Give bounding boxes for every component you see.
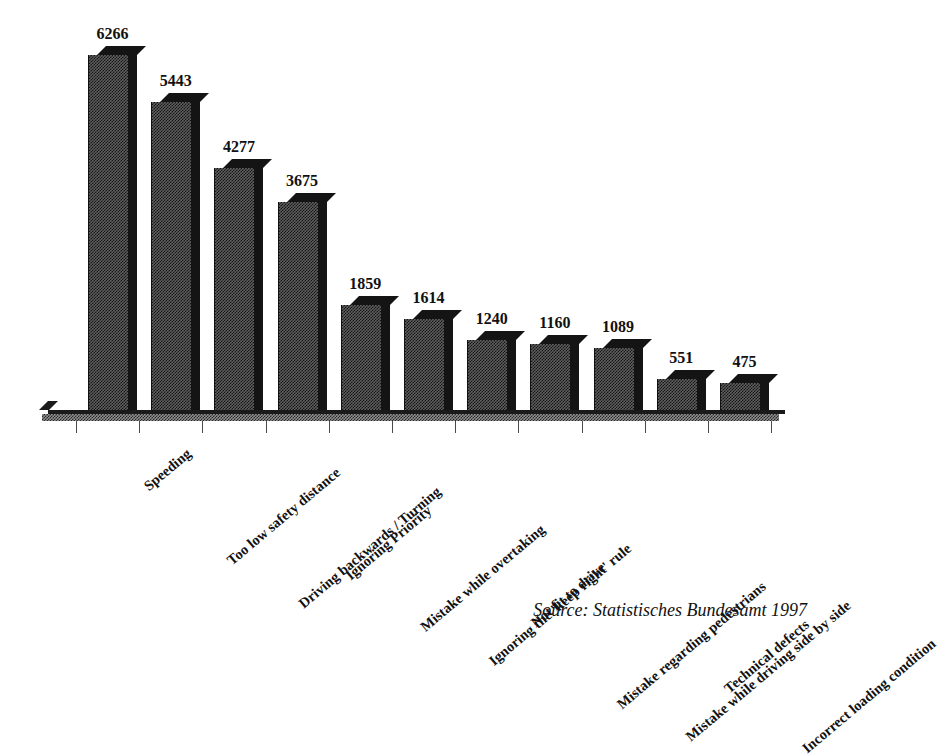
bar-front-face: [467, 340, 507, 410]
bar-side-face: [128, 55, 137, 410]
bar-top-face: [413, 310, 462, 319]
bar-top-face: [476, 331, 525, 340]
category-label: Speeding: [141, 446, 194, 493]
bar-value-label: 551: [647, 350, 716, 366]
source-note: Source: Statistisches Bundesamt 1997: [533, 600, 807, 621]
bar-top-face: [666, 370, 715, 379]
axis-tick: [455, 421, 456, 433]
bar-side-face: [507, 340, 516, 410]
category-label: Technical defects: [721, 617, 811, 696]
axis-tick: [771, 421, 772, 433]
bar-column: [341, 296, 390, 410]
axis-tick: [139, 421, 140, 433]
bar-side-face: [254, 168, 263, 410]
bar-front-face: [214, 168, 254, 410]
bar-value-label: 1614: [394, 290, 463, 306]
bar-front-face: [341, 305, 381, 410]
category-label: Ignoring Priority: [343, 503, 434, 583]
bar-front-face: [278, 202, 318, 410]
bar-front-face: [530, 344, 570, 410]
bar-value-label: 1859: [331, 276, 400, 292]
bar-column: [657, 370, 706, 410]
bar-value-label: 6266: [78, 26, 147, 42]
bar-top-face: [160, 93, 209, 102]
bar-front-face: [151, 102, 191, 410]
bar-side-face: [444, 319, 453, 410]
axis-tick: [645, 421, 646, 433]
bar-column: [404, 310, 453, 410]
bar-front-face: [594, 348, 634, 410]
bar-side-face: [570, 344, 579, 410]
bar-value-label: 5443: [141, 73, 210, 89]
bar-column: [530, 335, 579, 410]
bar-value-label: 4277: [204, 139, 273, 155]
bar-top-face: [603, 339, 652, 348]
bar-column: [278, 193, 327, 410]
bar-column: [88, 46, 137, 410]
axis-tick: [329, 421, 330, 433]
bar-value-label: 1089: [584, 319, 653, 335]
bar-column: [214, 159, 263, 410]
category-label: Too low safety distance: [225, 465, 343, 568]
bar-side-face: [191, 102, 200, 410]
axis-tick: [582, 421, 583, 433]
bar-value-label: 3675: [268, 173, 337, 189]
bar-column: [720, 374, 769, 410]
bar-top-face: [223, 159, 272, 168]
axis-tick: [266, 421, 267, 433]
bar-front-face: [88, 55, 128, 410]
category-label: Incorrect loading condition: [800, 636, 939, 756]
bar-top-face: [729, 374, 778, 383]
bar-side-face: [318, 202, 327, 410]
bar-column: [151, 93, 200, 410]
axis-tick: [76, 421, 77, 433]
bar-side-face: [697, 379, 706, 410]
bar-front-face: [657, 379, 697, 410]
bar-top-face: [97, 46, 146, 55]
bar-front-face: [404, 319, 444, 410]
bar-side-face: [634, 348, 643, 410]
axis-tick: [518, 421, 519, 433]
bar-value-label: 1160: [520, 315, 589, 331]
bar-top-face: [539, 335, 588, 344]
bar-top-face: [350, 296, 399, 305]
axis-tick: [202, 421, 203, 433]
axis-tick: [708, 421, 709, 433]
bar-front-face: [720, 383, 760, 410]
bar-column: [467, 331, 516, 410]
bar-column: [594, 339, 643, 410]
axis-tick: [392, 421, 393, 433]
bar-side-face: [381, 305, 390, 410]
bar-value-label: 1240: [457, 311, 526, 327]
axis-floor-lip: [39, 401, 58, 410]
bar-value-label: 475: [710, 354, 779, 370]
axis-floor-face: [42, 414, 779, 421]
bar-top-face: [287, 193, 336, 202]
bar-side-face: [760, 383, 769, 410]
